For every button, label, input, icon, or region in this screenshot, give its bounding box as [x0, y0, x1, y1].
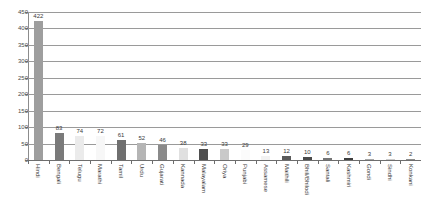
bar-value-label: 422 [33, 13, 43, 19]
x-tick-label: Bhili/Bhilodi [304, 164, 310, 195]
bar-value-label: 83 [56, 125, 63, 131]
bar-chart: 050100150200250300350400450 422837472615… [0, 0, 427, 220]
bar-value-label: 46 [159, 137, 166, 143]
x-tick-mark [256, 161, 257, 164]
x-label-slot: Assamese [256, 161, 277, 220]
bar[interactable] [303, 157, 312, 160]
bar[interactable] [55, 133, 64, 160]
bar-slot: 83 [49, 12, 70, 160]
x-tick-mark [131, 161, 132, 164]
bar-slot: 33 [214, 12, 235, 160]
bar-value-label: 2 [409, 151, 412, 157]
bar-value-label: 6 [347, 150, 350, 156]
bars-container: 4228374726152463833332913121066332 [28, 12, 421, 160]
bar[interactable] [323, 158, 332, 160]
bar-value-label: 3 [388, 151, 391, 157]
x-tick-label: Telugu [77, 164, 83, 182]
plot-area: 4228374726152463833332913121066332 [28, 12, 421, 160]
x-label-slot: Kashmiri [338, 161, 359, 220]
bar-value-label: 3 [368, 151, 371, 157]
x-tick-mark [90, 161, 91, 164]
bar[interactable] [137, 143, 146, 160]
bar-slot: 12 [276, 12, 297, 160]
bar-slot: 13 [256, 12, 277, 160]
x-label-slot: Hindi [28, 161, 49, 220]
x-label-slot: Malayalam [194, 161, 215, 220]
x-tick-label: Konkani [408, 164, 414, 186]
bar[interactable] [96, 136, 105, 160]
x-label-slot: Punjabi [235, 161, 256, 220]
x-tick-mark [297, 161, 298, 164]
x-label-slot: Oriya [214, 161, 235, 220]
x-tick-mark [318, 161, 319, 164]
chart-title [0, 0, 427, 7]
bar[interactable] [406, 159, 415, 160]
x-tick-label: Santali [325, 164, 331, 182]
bar[interactable] [158, 145, 167, 160]
bar[interactable] [386, 159, 395, 160]
bar-slot: 3 [359, 12, 380, 160]
x-label-slot: Maithili [276, 161, 297, 220]
bar-slot: 72 [90, 12, 111, 160]
x-label-slot: Sindhi [380, 161, 401, 220]
x-tick-mark [152, 161, 153, 164]
x-tick-mark [28, 161, 29, 164]
bar-value-label: 72 [97, 128, 104, 134]
x-tick-label: Malayalam [201, 164, 207, 193]
x-tick-label: Marathi [97, 164, 103, 184]
bar[interactable] [241, 150, 250, 160]
x-label-slot: Kannada [173, 161, 194, 220]
bar-value-label: 74 [76, 128, 83, 134]
bar[interactable] [199, 149, 208, 160]
x-tick-label: Hindi [35, 164, 41, 178]
bar[interactable] [117, 140, 126, 160]
x-label-slot: Telugu [69, 161, 90, 220]
x-tick-label: Tamil [118, 164, 124, 178]
x-label-slot: Bengali [49, 161, 70, 220]
bar-slot: 3 [380, 12, 401, 160]
bar[interactable] [179, 148, 188, 160]
bar[interactable] [261, 156, 270, 160]
x-label-slot: Gondi [359, 161, 380, 220]
bar-value-label: 29 [242, 142, 249, 148]
bar-value-label: 6 [326, 150, 329, 156]
bar-slot: 46 [152, 12, 173, 160]
bar[interactable] [34, 21, 43, 160]
bar[interactable] [220, 149, 229, 160]
x-tick-mark [380, 161, 381, 164]
bar-value-label: 13 [263, 148, 270, 154]
x-label-slot: Bhili/Bhilodi [297, 161, 318, 220]
x-label-slot: Tamil [111, 161, 132, 220]
bar-value-label: 33 [221, 141, 228, 147]
x-label-slot: Urdu [131, 161, 152, 220]
bar[interactable] [282, 156, 291, 160]
x-tick-mark [111, 161, 112, 164]
bar-value-label: 38 [180, 140, 187, 146]
x-tick-label: Kannada [180, 164, 186, 188]
x-tick-mark [359, 161, 360, 164]
bar-value-label: 10 [304, 149, 311, 155]
x-tick-mark [276, 161, 277, 164]
x-label-slot: Gujarati [152, 161, 173, 220]
x-tick-mark [214, 161, 215, 164]
x-tick-mark [338, 161, 339, 164]
x-label-slot: Santali [318, 161, 339, 220]
bar[interactable] [75, 136, 84, 160]
bar-slot: 38 [173, 12, 194, 160]
bar-value-label: 52 [138, 135, 145, 141]
x-tick-mark [69, 161, 70, 164]
x-tick-label: Oriya [222, 164, 228, 178]
bar-slot: 29 [235, 12, 256, 160]
x-tick-label: Assamese [263, 164, 269, 192]
bar-slot: 10 [297, 12, 318, 160]
x-tick-mark [194, 161, 195, 164]
x-tick-label: Maithili [284, 164, 290, 183]
bar-slot: 6 [338, 12, 359, 160]
x-tick-label: Gondi [366, 164, 372, 180]
bar[interactable] [365, 159, 374, 160]
bar-slot: 422 [28, 12, 49, 160]
x-tick-mark [173, 161, 174, 164]
bar[interactable] [344, 158, 353, 160]
x-label-slot: Marathi [90, 161, 111, 220]
x-tick-mark [49, 161, 50, 164]
